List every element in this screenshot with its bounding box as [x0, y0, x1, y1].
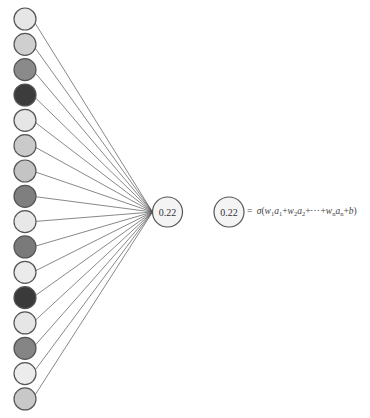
input-neuron	[14, 261, 36, 283]
input-neuron	[14, 135, 36, 157]
edge	[35, 212, 153, 221]
close-paren: )	[354, 206, 357, 216]
edge	[35, 23, 153, 212]
edge	[35, 97, 153, 212]
edge	[35, 73, 153, 212]
input-neuron	[14, 236, 36, 258]
input-layer	[14, 8, 36, 410]
edge	[35, 212, 153, 370]
edge	[35, 48, 153, 212]
edge	[35, 122, 153, 212]
input-neuron	[14, 59, 36, 81]
equation-neuron: 0.22	[214, 197, 244, 227]
output-neuron-value: 0.22	[159, 207, 177, 218]
input-neuron	[14, 33, 36, 55]
input-neuron	[14, 211, 36, 233]
input-neuron	[14, 109, 36, 131]
input-neuron	[14, 363, 36, 385]
input-neuron	[14, 388, 36, 410]
edge	[35, 172, 153, 212]
edges	[35, 23, 153, 395]
output-neuron: 0.22	[153, 197, 183, 227]
edge	[35, 212, 153, 246]
input-neuron	[14, 185, 36, 207]
equals-sign: =	[247, 206, 252, 216]
input-neuron	[14, 337, 36, 359]
input-neuron	[14, 287, 36, 309]
input-neuron	[14, 312, 36, 334]
plus-ellipsis: +⋯+	[305, 206, 326, 216]
activation-formula: = σ(w1a1+w2a2+⋯+wnan+b)	[247, 205, 357, 217]
edge	[35, 147, 153, 212]
input-neuron	[14, 8, 36, 30]
input-neuron	[14, 160, 36, 182]
edge	[35, 212, 153, 296]
edge	[35, 212, 153, 321]
equation-neuron-value: 0.22	[220, 207, 238, 218]
edge	[35, 212, 153, 271]
input-neuron	[14, 84, 36, 106]
edge	[35, 212, 153, 346]
edge	[35, 212, 153, 395]
